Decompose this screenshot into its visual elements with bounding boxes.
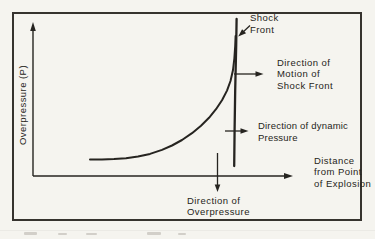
overpressure-curve — [90, 36, 236, 160]
cutoff-caption-remnant — [178, 233, 186, 235]
y-axis-label: Overpressure (P) — [17, 65, 29, 145]
shock-front-label: Shock Front — [250, 12, 279, 35]
dynamic-pressure-label: Direction of dynamic Pressure — [258, 120, 348, 143]
x-axis-label: Distance from Point of Explosion — [314, 155, 371, 190]
x-axis-label-line3: of Explosion — [314, 178, 371, 190]
overpressure-direction-label-line2: Overpressure — [187, 206, 250, 218]
motion-arrowhead-icon — [256, 71, 264, 77]
page-edge-streak — [0, 230, 375, 231]
cutoff-caption-remnant — [86, 233, 97, 235]
x-axis-arrowhead-icon — [284, 173, 293, 179]
y-axis-arrowhead-icon — [30, 22, 36, 31]
x-axis-label-line2: from Point — [314, 166, 371, 178]
x-axis-label-line1: Distance — [314, 155, 371, 167]
cutoff-caption-remnant — [147, 232, 161, 235]
motion-label: Direction of Motion of Shock Front — [277, 57, 333, 92]
motion-label-line1: Direction of — [277, 57, 333, 69]
overpressure-direction-label-line1: Direction of — [187, 195, 250, 207]
overpressure-direction-label: Direction of Overpressure — [187, 195, 250, 218]
shock-front-label-line2: Front — [250, 24, 279, 36]
shock-front-label-line1: Shock — [250, 12, 279, 24]
cutoff-caption-remnant — [58, 233, 67, 235]
cutoff-caption-remnant — [24, 232, 37, 235]
figure-canvas: Overpressure (P) Shock Front Direction o… — [0, 0, 375, 239]
overpressure-direction-arrowhead-icon — [215, 185, 221, 193]
dynamic-pressure-arrowhead-icon — [241, 128, 249, 134]
dynamic-pressure-label-line2: Pressure — [258, 132, 348, 144]
dynamic-pressure-label-line1: Direction of dynamic — [258, 120, 348, 132]
motion-label-line3: Shock Front — [277, 80, 333, 92]
motion-label-line2: Motion of — [277, 68, 333, 80]
